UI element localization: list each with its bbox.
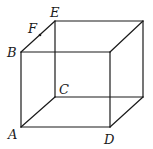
label-d: D [103, 132, 115, 147]
cube-diagram: E F B C A D [0, 0, 153, 149]
label-c: C [59, 82, 69, 97]
label-b: B [6, 45, 17, 60]
label-a: A [7, 127, 17, 142]
label-f: F [27, 21, 38, 36]
point-f [39, 34, 42, 37]
edge-be [21, 21, 55, 52]
label-e: E [49, 5, 60, 20]
edge-ac [21, 97, 55, 127]
edge-top-right-connect [110, 21, 143, 52]
edge-d-back-bottom-right [110, 97, 143, 127]
